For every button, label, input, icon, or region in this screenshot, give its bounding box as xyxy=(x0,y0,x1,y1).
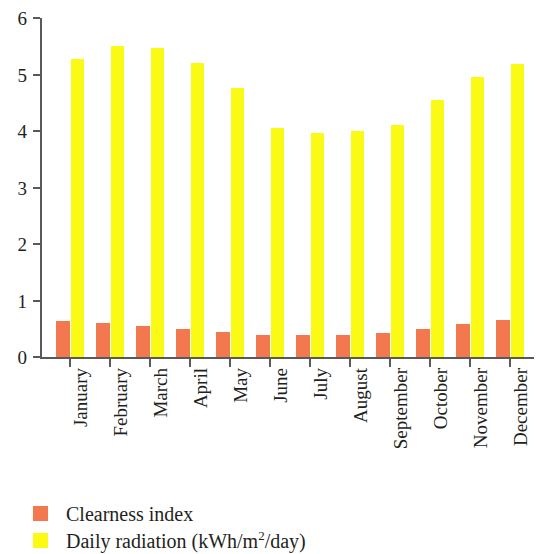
x-axis-label-text: December xyxy=(511,368,530,446)
y-axis-tick: 5 xyxy=(33,74,40,76)
bar-daily-radiation xyxy=(231,88,244,358)
legend-label-daily-radiation-prefix: Daily radiation (kWh/m xyxy=(66,530,258,552)
x-axis-tick xyxy=(229,359,231,367)
bar-group xyxy=(176,18,204,357)
legend-label-daily-radiation-suffix: /day) xyxy=(265,530,306,552)
x-axis-label: March xyxy=(145,368,164,418)
x-axis-label-text: September xyxy=(391,368,410,449)
x-axis-label-text: April xyxy=(191,368,210,408)
legend-swatch-daily-radiation xyxy=(33,533,48,548)
bar-clearness-index xyxy=(296,335,310,357)
bar-clearness-index xyxy=(216,332,230,357)
x-axis-tick xyxy=(149,359,151,367)
bar-clearness-index xyxy=(256,335,270,357)
y-axis-line xyxy=(40,18,42,359)
bar-clearness-index xyxy=(176,329,190,357)
bar-clearness-index xyxy=(136,326,150,357)
x-axis-label-text: May xyxy=(231,368,250,403)
y-axis-tick-label: 1 xyxy=(18,291,28,310)
x-axis-label-text: October xyxy=(431,368,450,429)
x-axis-tick xyxy=(349,359,351,367)
x-axis-label: July xyxy=(305,368,324,400)
x-axis-label-text: February xyxy=(111,368,130,437)
bar-group xyxy=(376,18,404,357)
x-axis-label: January xyxy=(65,368,84,427)
bar-clearness-index xyxy=(56,321,70,357)
x-axis-label-text: January xyxy=(71,368,90,427)
x-axis-label: February xyxy=(105,368,124,437)
bar-group xyxy=(256,18,284,357)
x-axis-label-text: March xyxy=(151,368,170,418)
bar-clearness-index xyxy=(456,324,470,357)
legend-swatch-clearness-index xyxy=(33,506,48,521)
x-axis-tick xyxy=(189,359,191,367)
bar-daily-radiation xyxy=(431,100,444,357)
bar-daily-radiation xyxy=(151,48,164,357)
x-axis-label: December xyxy=(505,368,524,446)
y-axis-tick-label: 4 xyxy=(18,122,28,141)
x-axis-label: August xyxy=(345,368,364,423)
bar-daily-radiation xyxy=(71,59,84,357)
y-axis-tick: 4 xyxy=(33,130,40,132)
x-axis-labels: JanuaryFebruaryMarchAprilMayJuneJulyAugu… xyxy=(40,368,534,486)
bar-group xyxy=(336,18,364,357)
x-axis-tick xyxy=(309,359,311,367)
x-axis-label: October xyxy=(425,368,444,429)
bar-group xyxy=(96,18,124,357)
bar-clearness-index xyxy=(336,335,350,357)
bar-daily-radiation xyxy=(471,77,484,357)
x-axis-label-text: June xyxy=(271,368,290,403)
y-axis-tick: 3 xyxy=(33,187,40,189)
bar-clearness-index xyxy=(496,320,510,357)
x-axis-label: April xyxy=(185,368,204,408)
y-axis-tick: 0 xyxy=(33,356,40,358)
bar-daily-radiation xyxy=(191,63,204,357)
bar-clearness-index xyxy=(376,333,390,357)
y-axis-tick: 2 xyxy=(33,243,40,245)
y-axis-tick-label: 3 xyxy=(18,178,28,197)
bar-group xyxy=(136,18,164,357)
bar-group xyxy=(416,18,444,357)
bar-daily-radiation xyxy=(391,125,404,357)
y-axis-tick-label: 0 xyxy=(18,348,28,367)
y-axis-tick: 6 xyxy=(33,17,40,19)
chart-legend: Clearness index Daily radiation (kWh/m2/… xyxy=(33,500,513,554)
x-axis-tick xyxy=(269,359,271,367)
bar-group xyxy=(296,18,324,357)
x-axis-label-text: August xyxy=(351,368,370,423)
x-axis-tick xyxy=(69,359,71,367)
bar-daily-radiation xyxy=(311,133,324,357)
x-axis-label-text: July xyxy=(311,368,330,400)
bar-clearness-index xyxy=(96,323,110,357)
bar-daily-radiation xyxy=(511,64,524,357)
legend-label-daily-radiation: Daily radiation (kWh/m2/day) xyxy=(66,531,306,551)
y-axis-tick: 1 xyxy=(33,300,40,302)
bar-group xyxy=(456,18,484,357)
legend-item-daily-radiation: Daily radiation (kWh/m2/day) xyxy=(33,527,513,554)
bar-daily-radiation xyxy=(271,128,284,357)
x-axis-tick xyxy=(109,359,111,367)
y-axis-tick-label: 6 xyxy=(18,9,28,28)
bar-group xyxy=(56,18,84,357)
y-axis-tick-label: 2 xyxy=(18,235,28,254)
x-axis-line xyxy=(40,357,534,359)
legend-label-clearness-index: Clearness index xyxy=(66,504,193,524)
x-axis-tick xyxy=(469,359,471,367)
x-axis-tick xyxy=(389,359,391,367)
x-axis-tick xyxy=(509,359,511,367)
bar-group xyxy=(496,18,524,357)
x-axis-label: September xyxy=(385,368,404,449)
x-axis-label: May xyxy=(225,368,244,403)
bar-daily-radiation xyxy=(111,46,124,357)
x-axis-label-text: November xyxy=(471,368,490,448)
legend-item-clearness-index: Clearness index xyxy=(33,500,513,527)
x-axis-label: November xyxy=(465,368,484,448)
x-axis-label: June xyxy=(265,368,284,403)
bar-chart: 0123456 JanuaryFebruaryMarchAprilMayJune… xyxy=(0,0,539,554)
bar-group xyxy=(216,18,244,357)
y-axis-tick-label: 5 xyxy=(18,65,28,84)
bar-clearness-index xyxy=(416,329,430,357)
bar-daily-radiation xyxy=(351,131,364,357)
plot-area: 0123456 xyxy=(40,18,534,359)
x-axis-tick xyxy=(429,359,431,367)
